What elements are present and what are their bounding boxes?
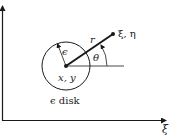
horizontal-axis-label: ξ (162, 123, 169, 136)
epsilon-disk-diagram: ξ ξ, η r θ ϵ x, y ϵ disk (0, 0, 171, 136)
r-label: r (90, 34, 96, 45)
theta-label: θ (93, 52, 99, 63)
xi-eta-point (111, 32, 115, 36)
center-label: x, y (58, 72, 76, 83)
epsilon-label: ϵ (62, 46, 68, 57)
point-label: ξ, η (118, 28, 136, 39)
disk-caption: ϵ disk (50, 95, 81, 106)
theta-arc (101, 45, 107, 66)
